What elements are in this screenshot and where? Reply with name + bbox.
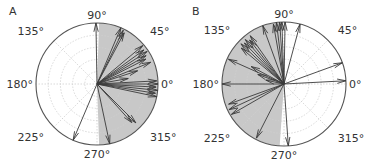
grid-spoke (284, 40, 328, 84)
angle-label: 270° (271, 149, 298, 162)
arrow-head (73, 131, 78, 140)
grid-spoke (284, 84, 328, 128)
angle-label: 270° (84, 148, 111, 161)
angle-label: 90° (87, 9, 107, 22)
angle-label: 180° (7, 78, 34, 91)
grid-spoke (54, 84, 97, 127)
vector-arrow (284, 81, 346, 84)
angle-label: 225° (17, 131, 44, 144)
angle-label: 0° (161, 78, 174, 91)
angle-label: 135° (17, 25, 44, 38)
polar-svg-b: 0°45°90°135°180°225°270°315° (183, 0, 367, 166)
angle-label: 315° (338, 132, 365, 145)
polar-plot-b: B 0°45°90°135°180°225°270°315° (183, 0, 367, 166)
angle-label: 45° (150, 25, 170, 38)
vector-arrow (73, 84, 97, 140)
angle-label: 0° (349, 78, 362, 91)
angle-label: 315° (150, 131, 177, 144)
angle-label: 45° (338, 24, 358, 37)
angle-label: 225° (204, 132, 231, 145)
angle-label: 180° (193, 78, 220, 91)
polar-plot-a: A 0°45°90°135°180°225°270°315° (0, 0, 184, 166)
polar-svg-a: 0°45°90°135°180°225°270°315° (0, 0, 184, 166)
angle-label: 90° (274, 8, 294, 21)
vector-arrow (284, 22, 285, 84)
vector-arrow (284, 84, 288, 146)
vector-arrow (284, 63, 342, 84)
grid-spoke (54, 41, 97, 84)
angle-label: 135° (204, 24, 231, 37)
